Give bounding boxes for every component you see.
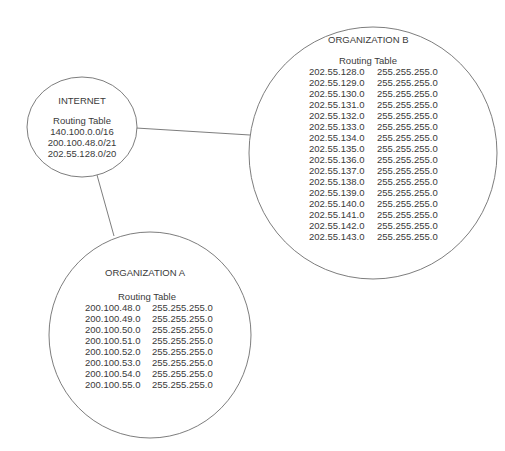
route-network: 202.55.131.0 (309, 99, 377, 110)
route-network: 202.55.130.0 (309, 88, 377, 99)
route-row: 200.100.51.0255.255.255.0 (85, 335, 213, 346)
link-internet-org-b (136, 128, 250, 135)
route-mask: 255.255.255.0 (377, 88, 438, 99)
route-mask: 255.255.255.0 (152, 368, 213, 379)
route-mask: 255.255.255.0 (377, 187, 438, 198)
route-row: 202.55.140.0255.255.255.0 (309, 198, 438, 209)
route-network: 202.55.134.0 (309, 132, 377, 143)
route-row: 200.100.48.0255.255.255.0 (85, 302, 213, 313)
route-mask: 255.255.255.0 (377, 220, 438, 231)
route-row: 202.55.142.0255.255.255.0 (309, 220, 438, 231)
route-network: 202.55.137.0 (309, 165, 377, 176)
route-network: 200.100.50.0 (85, 324, 152, 335)
route-mask: 255.255.255.0 (377, 165, 438, 176)
route-row: 202.55.131.0255.255.255.0 (309, 99, 438, 110)
route-network: 202.55.128.0 (309, 66, 377, 77)
route-mask: 255.255.255.0 (377, 209, 438, 220)
route-row: 202.55.138.0255.255.255.0 (309, 176, 438, 187)
route-row: 200.100.52.0255.255.255.0 (85, 346, 213, 357)
internet-routing-table-title: Routing Table (27, 115, 137, 126)
route-row: 202.55.133.0255.255.255.0 (309, 121, 438, 132)
route-network: 200.100.49.0 (85, 313, 152, 324)
route-row: 202.55.129.0255.255.255.0 (309, 77, 438, 88)
route-network: 200.100.48.0 (85, 302, 152, 313)
org-a-routing-table-title: Routing Table (85, 291, 176, 302)
org-b-label: ORGANIZATION B (310, 34, 409, 45)
route-mask: 255.255.255.0 (152, 302, 213, 313)
route-mask: 255.255.255.0 (377, 143, 438, 154)
route-mask: 255.255.255.0 (377, 132, 438, 143)
route-mask: 255.255.255.0 (152, 357, 213, 368)
route-network: 202.55.132.0 (309, 110, 377, 121)
route-row: 202.55.141.0255.255.255.0 (309, 209, 438, 220)
route-row: 202.55.139.0255.255.255.0 (309, 187, 438, 198)
route-network: 202.55.140.0 (309, 198, 377, 209)
route-mask: 255.255.255.0 (377, 77, 438, 88)
route-row: 200.100.55.0255.255.255.0 (85, 379, 213, 390)
route-mask: 255.255.255.0 (377, 110, 438, 121)
route-row: 202.55.130.0255.255.255.0 (309, 88, 438, 99)
route-network: 200.100.52.0 (85, 346, 152, 357)
route-row: 202.55.135.0255.255.255.0 (309, 143, 438, 154)
route-network: 202.55.136.0 (309, 154, 377, 165)
internet-route: 202.55.128.0/20 (27, 148, 137, 159)
internet-route: 140.100.0.0/16 (27, 126, 137, 137)
route-network: 200.100.55.0 (85, 379, 152, 390)
route-network: 202.55.142.0 (309, 220, 377, 231)
route-row: 200.100.49.0255.255.255.0 (85, 313, 213, 324)
org-a-routing-table: Routing Table (85, 291, 176, 302)
route-row: 202.55.128.0255.255.255.0 (309, 66, 438, 77)
org-b-title: ORGANIZATION B (310, 34, 409, 45)
route-network: 202.55.133.0 (309, 121, 377, 132)
route-mask: 255.255.255.0 (377, 99, 438, 110)
route-mask: 255.255.255.0 (377, 66, 438, 77)
route-row: 202.55.134.0255.255.255.0 (309, 132, 438, 143)
route-network: 200.100.53.0 (85, 357, 152, 368)
route-network: 202.55.138.0 (309, 176, 377, 187)
org-a-title: ORGANIZATION A (105, 267, 185, 278)
route-row: 200.100.53.0255.255.255.0 (85, 357, 213, 368)
route-mask: 255.255.255.0 (152, 324, 213, 335)
org-b-routing-table-title: Routing Table (309, 55, 397, 66)
org-a-route-list: 200.100.48.0255.255.255.0200.100.49.0255… (85, 302, 213, 390)
route-mask: 255.255.255.0 (377, 154, 438, 165)
route-mask: 255.255.255.0 (152, 346, 213, 357)
route-mask: 255.255.255.0 (152, 313, 213, 324)
route-mask: 255.255.255.0 (377, 176, 438, 187)
route-network: 202.55.139.0 (309, 187, 377, 198)
route-mask: 255.255.255.0 (152, 335, 213, 346)
route-network: 202.55.129.0 (309, 77, 377, 88)
org-b-routing-table: Routing Table (309, 55, 397, 66)
route-network: 200.100.51.0 (85, 335, 152, 346)
internet-label: INTERNET Routing Table 140.100.0.0/16 20… (27, 95, 137, 159)
route-network: 202.55.143.0 (309, 231, 377, 242)
org-a-label: ORGANIZATION A (105, 267, 185, 278)
link-internet-org-a (97, 175, 114, 236)
route-row: 200.100.50.0255.255.255.0 (85, 324, 213, 335)
route-mask: 255.255.255.0 (152, 379, 213, 390)
route-row: 202.55.137.0255.255.255.0 (309, 165, 438, 176)
route-row: 202.55.136.0255.255.255.0 (309, 154, 438, 165)
route-row: 202.55.143.0255.255.255.0 (309, 231, 438, 242)
route-network: 202.55.135.0 (309, 143, 377, 154)
route-mask: 255.255.255.0 (377, 231, 438, 242)
internet-route: 200.100.48.0/21 (27, 137, 137, 148)
route-mask: 255.255.255.0 (377, 198, 438, 209)
route-network: 202.55.141.0 (309, 209, 377, 220)
route-row: 200.100.54.0255.255.255.0 (85, 368, 213, 379)
route-network: 200.100.54.0 (85, 368, 152, 379)
route-mask: 255.255.255.0 (377, 121, 438, 132)
internet-title: INTERNET (27, 95, 137, 106)
route-row: 202.55.132.0255.255.255.0 (309, 110, 438, 121)
org-b-route-list: 202.55.128.0255.255.255.0202.55.129.0255… (309, 66, 438, 242)
